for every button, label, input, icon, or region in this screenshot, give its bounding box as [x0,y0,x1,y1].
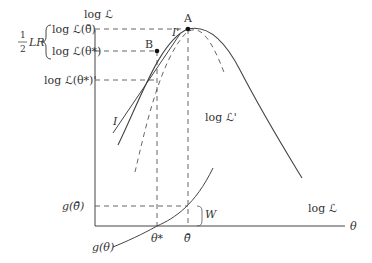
lr-curly-brace [42,25,51,59]
w-label: W [205,208,218,221]
log-l-star-prime-label: log ℒ(θ*)' [44,74,96,87]
log-l-hat-label: log ℒ(θ̄) [52,23,96,36]
log-l-prime-label: log ℒ' [205,111,237,124]
y-axis-label: log ℒ [84,8,113,21]
g-theta-label: g(θ) [92,241,114,254]
lr-fraction-numerator: 1 [20,30,26,40]
theta-hat-label: θ̄ [184,232,191,245]
tangent-upper-label: I' [171,26,179,39]
likelihood-diagram: log ℒ θ A B I' I log ℒ' log ℒ g(θ) W log… [0,0,372,263]
x-axis-label: θ [350,220,357,233]
point-a [186,27,191,32]
log-l-label: log ℒ [308,202,337,215]
w-bracket [197,206,202,226]
log-l-star-label: log ℒ(θ*) [52,45,101,58]
lr-label: LR [28,36,45,49]
point-a-label: A [183,12,193,25]
log-l-prime-curve [135,30,225,172]
point-b [155,49,160,54]
g-hat-label: g(θ̄) [62,200,84,213]
lr-fraction-denominator: 2 [20,44,26,54]
theta-star-label: θ* [151,232,164,245]
point-b-label: B [145,38,153,51]
tangent-lower-label: I [112,115,118,128]
